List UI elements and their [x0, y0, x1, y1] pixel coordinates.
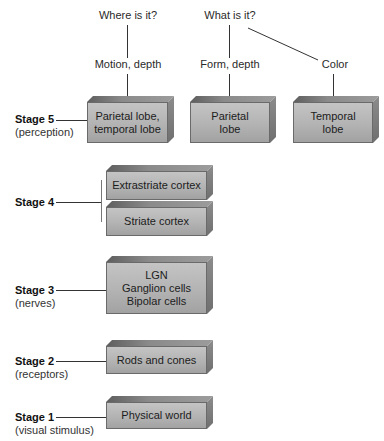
- stage-sub: (nerves): [15, 297, 55, 309]
- connector-what-form: [229, 25, 230, 58]
- box-text-line: Ganglion cells: [122, 282, 191, 294]
- stage-4-bracket: [101, 180, 106, 222]
- stage-sub: (visual stimulus): [15, 424, 94, 436]
- box-rods-cones: Rods and cones: [106, 340, 213, 374]
- stage-1-label: Stage 1 (visual stimulus): [15, 411, 94, 437]
- where-is-it-label: Where is it?: [98, 9, 158, 21]
- box-text-line: Parietal lobe,: [95, 110, 159, 122]
- stage-name: Stage 2: [15, 355, 54, 367]
- stage-2-label: Stage 2 (receptors): [15, 355, 68, 381]
- box-text-line: lobe: [323, 123, 344, 135]
- stage-name: Stage 4: [15, 196, 54, 208]
- form-depth-label: Form, depth: [196, 58, 264, 70]
- stage-4-label: Stage 4: [15, 196, 54, 209]
- box-extrastriate-cortex: Extrastriate cortex: [106, 165, 213, 200]
- motion-depth-label: Motion, depth: [90, 58, 166, 70]
- box-parietal-temporal-lobe: Parietal lobe,temporal lobe: [87, 96, 174, 143]
- box-text-line: lobe: [220, 123, 241, 135]
- box-nerves: LGNGanglion cellsBipolar cells: [106, 256, 213, 314]
- box-text-line: Temporal: [310, 110, 355, 122]
- stage-2-connector: [56, 361, 106, 362]
- stage-name: Stage 1: [15, 411, 54, 423]
- box-text-line: Bipolar cells: [127, 295, 186, 307]
- stage-4-connector: [56, 202, 101, 203]
- connector-where-motion: [127, 25, 128, 58]
- box-text-line: temporal lobe: [94, 123, 161, 135]
- stage-5-label: Stage 5 (perception): [15, 113, 74, 139]
- box-text: Physical world: [121, 409, 191, 422]
- box-text-line: Parietal: [211, 110, 248, 122]
- stage-5-connector: [56, 120, 87, 121]
- stage-1-connector: [56, 417, 106, 418]
- box-parietal-lobe: Parietallobe: [190, 96, 276, 143]
- color-label: Color: [315, 58, 355, 70]
- box-text-line: LGN: [145, 269, 168, 281]
- stage-3-connector: [56, 290, 106, 291]
- stage-3-label: Stage 3 (nerves): [15, 284, 55, 310]
- box-text: Striate cortex: [124, 215, 189, 228]
- box-physical-world: Physical world: [106, 396, 213, 429]
- stage-sub: (receptors): [15, 368, 68, 380]
- stage-sub: (perception): [15, 126, 74, 138]
- box-temporal-lobe: Temporallobe: [293, 96, 379, 143]
- stage-name: Stage 5: [15, 113, 54, 125]
- box-text: Extrastriate cortex: [112, 179, 201, 192]
- box-striate-cortex: Striate cortex: [106, 201, 213, 236]
- stage-name: Stage 3: [15, 284, 54, 296]
- box-text: Rods and cones: [117, 354, 197, 367]
